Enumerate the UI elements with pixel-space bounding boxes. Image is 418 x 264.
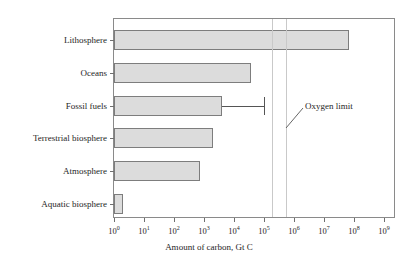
oxygen-limit-annotation: Oxygen limit (305, 101, 353, 111)
annotation-leader-line (0, 0, 418, 264)
x-axis-title: Amount of carbon, Gt C (0, 242, 418, 252)
carbon-reservoir-bar-chart: LithosphereOceansFossil fuelsTerrestrial… (0, 0, 418, 264)
